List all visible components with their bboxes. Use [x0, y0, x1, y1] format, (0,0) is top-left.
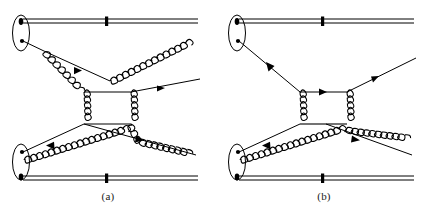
lower-incoming-quark-b: [239, 124, 300, 152]
central-gluon-box-b: [300, 89, 354, 124]
panel-a-diagram: [0, 0, 216, 216]
panel-b-label: (b): [216, 190, 432, 202]
upper-hadron-blob-a: [13, 15, 30, 51]
upper-spectator-line-a: [23, 17, 198, 27]
panel-b-diagram: [216, 0, 432, 216]
panel-a: (a): [0, 0, 216, 216]
panel-b: (b): [216, 0, 432, 216]
lower-hadron-blob-a: [13, 144, 30, 180]
figure-root: (a): [0, 0, 432, 216]
lower-hadron-blob-b: [229, 144, 246, 180]
upper-spectator-line-b: [239, 17, 414, 27]
lower-spectator-line-b: [239, 174, 414, 184]
upper-hadron-blob-b: [229, 15, 246, 51]
lower-spectator-line-a: [23, 174, 198, 184]
upper-incoming-quark-a: [23, 41, 110, 81]
lower-incoming-quark-a: [23, 124, 84, 152]
gluon-upper-right-a: [110, 39, 193, 84]
outgoing-quark-upper-b: [347, 58, 416, 92]
outgoing-quark-upper-a: [131, 79, 200, 92]
upper-incoming-quark-b: [239, 41, 300, 92]
central-gluon-box-a: [84, 90, 138, 124]
panel-a-label: (a): [0, 190, 216, 202]
